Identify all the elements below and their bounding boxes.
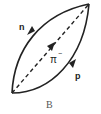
feynman-diagram: n π − p B xyxy=(0,0,101,114)
diagram-caption: B xyxy=(46,99,53,110)
pion-label: π xyxy=(50,54,57,65)
neutron-arrow-icon xyxy=(27,26,35,35)
proton-label: p xyxy=(75,71,81,81)
pion-arrow-icon xyxy=(47,42,55,51)
neutron-label: n xyxy=(19,22,25,32)
pion-charge-label: − xyxy=(58,50,62,57)
